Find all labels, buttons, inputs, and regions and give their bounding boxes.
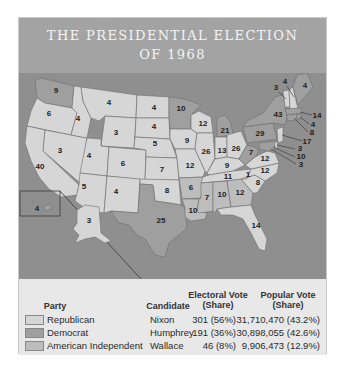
label-va: 12: [261, 154, 270, 163]
label-ny: 43: [274, 110, 283, 119]
party-name: Republican: [47, 313, 95, 326]
label-ok: 8: [165, 186, 170, 195]
label-nc-faithless: 1: [246, 170, 251, 179]
header-electoral: Electoral Vote (Share): [185, 290, 251, 310]
swatch-republican: [25, 315, 44, 325]
label-ga: 12: [236, 188, 245, 197]
label-il: 26: [202, 147, 211, 156]
label-mo: 12: [186, 161, 195, 170]
swatch-democrat: [25, 328, 44, 338]
label-ma: 14: [313, 111, 322, 120]
state-ct: [287, 114, 297, 121]
popular-vote: 31,710,470 (43.2%): [237, 313, 320, 326]
header-electoral-line2: (Share): [185, 300, 251, 310]
state-nm: [104, 176, 140, 213]
label-id: 4: [76, 114, 81, 123]
label-sc: 8: [256, 178, 261, 187]
label-mn: 10: [177, 104, 186, 113]
label-me: 4: [303, 81, 308, 90]
us-electoral-map: 9 6 40 4 3 4 3 4 5 6 4 4 4 5 7 8 25 10 9…: [19, 73, 326, 279]
title-line-2: OF 1968: [19, 45, 326, 64]
label-tx: 25: [157, 216, 166, 225]
label-tn: 11: [224, 172, 233, 181]
state-ia: [170, 129, 197, 149]
state-hi: [43, 204, 52, 211]
label-nc: 12: [261, 166, 270, 175]
header-party: Party: [25, 301, 85, 311]
label-ut: 4: [87, 151, 92, 160]
swatch-american-independent: [25, 341, 44, 351]
label-sd: 4: [152, 122, 157, 131]
label-mt: 4: [107, 98, 112, 107]
electoral-vote: 46 (8%): [203, 339, 236, 352]
label-nj: 17: [303, 137, 312, 146]
label-ks: 7: [160, 165, 165, 174]
label-ne: 5: [153, 139, 158, 148]
title-line-1: THE PRESIDENTIAL ELECTION: [19, 26, 326, 45]
candidate-name: Wallace: [150, 339, 183, 352]
legend-row-democrat: Democrat Humphrey 191 (36%) 30,898,055 (…: [19, 326, 326, 340]
election-map-figure: THE PRESIDENTIAL ELECTION OF 1968: [18, 17, 327, 354]
popular-vote: 30,898,055 (42.6%): [237, 326, 320, 339]
label-ar: 6: [189, 183, 194, 192]
state-co: [107, 147, 146, 180]
header-popular-line1: Popular Vote: [255, 290, 321, 300]
state-ri: [297, 114, 301, 119]
party-name: American Independent: [47, 339, 143, 352]
label-ak: 3: [87, 216, 92, 225]
label-ia: 9: [185, 136, 190, 145]
label-nd: 4: [152, 103, 157, 112]
label-nh: 4: [283, 77, 288, 86]
label-wa: 9: [54, 86, 59, 95]
header-popular: Popular Vote (Share): [255, 290, 321, 310]
label-nm: 4: [114, 187, 119, 196]
candidate-name: Nixon: [150, 313, 174, 326]
header-electoral-line1: Electoral Vote: [185, 290, 251, 300]
label-ca: 40: [36, 162, 45, 171]
label-ms: 7: [205, 193, 210, 202]
label-ct: 8: [310, 128, 315, 137]
label-hi: 4: [35, 204, 40, 213]
label-dc: 3: [299, 160, 304, 169]
figure-title: THE PRESIDENTIAL ELECTION OF 1968: [19, 18, 326, 73]
header-popular-line2: (Share): [255, 300, 321, 310]
label-fl: 14: [252, 221, 261, 230]
label-vt: 3: [274, 83, 279, 92]
label-oh: 26: [232, 144, 241, 153]
label-nv: 3: [58, 146, 63, 155]
label-ky: 9: [225, 161, 230, 170]
legend-row-american-independent: American Independent Wallace 46 (8%) 9,9…: [19, 339, 326, 353]
candidate-name: Humphrey: [150, 326, 194, 339]
electoral-vote: 191 (36%): [192, 326, 236, 339]
label-az: 5: [82, 182, 87, 191]
label-wv: 7: [249, 148, 254, 157]
popular-vote: 9,906,473 (12.9%): [242, 339, 320, 352]
state-wy: [101, 116, 136, 148]
label-co: 6: [121, 159, 126, 168]
legend-row-republican: Republican Nixon 301 (56%) 31,710,470 (4…: [19, 313, 326, 327]
label-al: 10: [218, 190, 227, 199]
state-md: [259, 141, 277, 151]
label-wi: 12: [199, 119, 208, 128]
electoral-vote: 301 (56%): [192, 313, 236, 326]
label-la: 10: [189, 206, 198, 215]
legend-table: Party Candidate Electoral Vote (Share) P…: [19, 279, 326, 355]
label-or: 6: [47, 109, 52, 118]
label-pa: 29: [256, 129, 265, 138]
label-in: 13: [218, 146, 227, 155]
label-mi: 21: [221, 126, 230, 135]
label-wy: 3: [114, 128, 119, 137]
party-name: Democrat: [47, 326, 88, 339]
